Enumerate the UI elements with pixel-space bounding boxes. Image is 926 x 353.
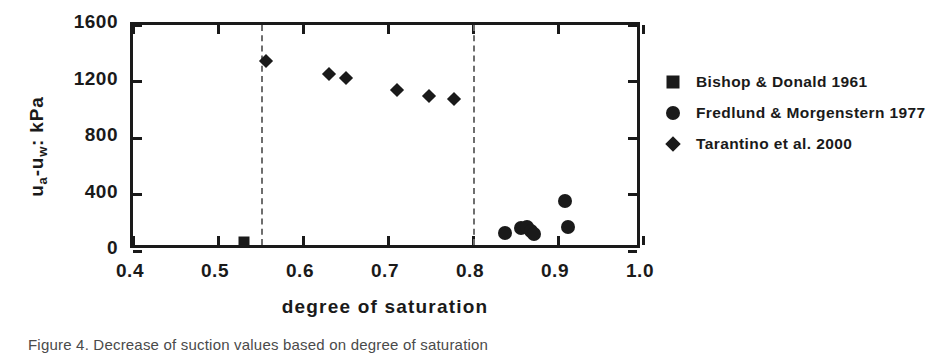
x-axis-title: degree of saturation [130,296,640,318]
legend-square-icon [660,72,686,92]
data-point-circle [527,227,541,241]
figure-caption: Figure 4. Decrease of suction values bas… [28,336,488,353]
data-point-diamond [422,89,436,103]
x-tick-label-0.6: 0.6 [286,260,314,282]
y-axis-title-mid: -u [26,157,47,177]
legend-circle-icon [660,103,686,123]
data-point-diamond [389,83,403,97]
x-tick-label-0.8: 0.8 [456,260,484,282]
data-point-square [238,237,249,248]
y-tick-1600 [133,24,142,27]
data-point-circle [558,194,572,208]
reference-line-0.8 [473,25,475,245]
y-tick-label-400: 400 [40,181,118,203]
x-tick-1.0 [642,25,645,34]
legend-label: Fredlund & Morgenstern 1977 [686,104,926,122]
y-tick-0 [133,250,142,253]
legend-label: Bishop & Donald 1961 [686,73,868,91]
x-tick-label-0.4: 0.4 [116,260,144,282]
x-tick-label-0.5: 0.5 [201,260,229,282]
plot-area [130,22,640,248]
x-tick-1.0 [642,236,645,245]
legend-item-1[interactable]: Bishop & Donald 1961 [660,66,910,97]
y-tick-1600 [628,24,637,27]
data-point-circle [561,220,575,234]
y-tick-800 [628,137,637,140]
x-tick-label-1.0: 1.0 [626,260,654,282]
x-tick-label-0.9: 0.9 [541,260,569,282]
x-tick-0.4 [132,236,135,245]
x-tick-0.5 [217,236,220,245]
x-tick-0.9 [557,25,560,34]
y-tick-label-1600: 1600 [40,11,118,33]
y-tick-label-0: 0 [40,237,118,259]
y-tick-1200 [133,80,142,83]
legend-diamond-icon [660,134,686,154]
legend: Bishop & Donald 1961Fredlund & Morgenste… [660,66,910,159]
x-tick-0.6 [302,25,305,34]
legend-item-2[interactable]: Fredlund & Morgenstern 1977 [660,97,910,128]
y-tick-400 [628,193,637,196]
y-tick-400 [133,193,142,196]
legend-item-3[interactable]: Tarantino et al. 2000 [660,128,910,159]
y-tick-1200 [628,80,637,83]
data-point-diamond [447,92,461,106]
x-tick-0.5 [217,25,220,34]
y-axis-title-sub-w: w [35,146,50,157]
y-tick-label-1200: 1200 [40,68,118,90]
data-point-diamond [321,67,335,81]
y-tick-label-800: 800 [40,124,118,146]
y-tick-800 [133,137,142,140]
x-tick-0.6 [302,236,305,245]
x-tick-label-0.7: 0.7 [371,260,399,282]
data-point-diamond [338,71,352,85]
data-point-circle [498,226,512,240]
x-tick-0.7 [387,236,390,245]
x-tick-0.7 [387,25,390,34]
legend-label: Tarantino et al. 2000 [686,135,852,153]
x-tick-0.9 [557,236,560,245]
y-tick-0 [628,250,637,253]
